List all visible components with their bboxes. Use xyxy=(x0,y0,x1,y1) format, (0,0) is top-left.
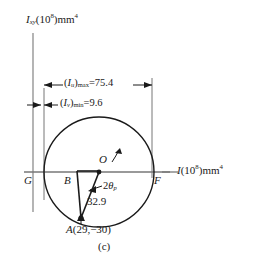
x-axis-unit-exponent: 4 xyxy=(220,163,223,170)
point-a-name: A xyxy=(66,223,73,235)
dimension-label-imin: (Iv)min=9.6 xyxy=(60,98,103,109)
theta-subscript: p xyxy=(113,184,116,191)
angle-label-2thetap: 2θp xyxy=(103,181,117,192)
imax-value: =75.4 xyxy=(89,77,113,88)
radius-label: 32.9 xyxy=(87,196,106,207)
y-axis-unit-exponent: 4 xyxy=(75,12,78,19)
figure-caption: (c) xyxy=(98,241,110,252)
imax-subscript: max xyxy=(78,81,89,88)
angle-leader-2thetap xyxy=(112,148,122,162)
angle-pointer-arrow xyxy=(88,186,102,193)
y-axis-label: Ixy(108)mm4 xyxy=(26,14,78,25)
mohrs-circle-figure: Ixy(108)mm4 I(108)mm4 (Iu)max=75.4 (Iv)m… xyxy=(0,0,253,273)
point-a-coordinates: (29,−30) xyxy=(73,223,111,235)
y-axis-unit: )mm xyxy=(54,13,75,25)
segment-b-a xyxy=(77,171,81,218)
x-axis-label: I(108)mm4 xyxy=(177,165,223,176)
point-label-b: B xyxy=(64,175,71,186)
figure-canvas xyxy=(0,0,253,273)
dimension-imin xyxy=(27,102,58,108)
imin-value: =9.6 xyxy=(84,97,103,108)
x-axis-unit: )mm xyxy=(199,164,220,176)
y-axis-paren: (10 xyxy=(36,13,51,25)
point-label-a: A(29,−30) xyxy=(66,224,111,235)
point-label-g: G xyxy=(24,175,32,186)
x-axis-paren: (10 xyxy=(181,164,196,176)
imin-subscript: min xyxy=(73,101,83,108)
dimension-label-imax: (Iu)max=75.4 xyxy=(64,78,113,89)
point-label-o: O xyxy=(99,154,107,165)
point-label-f: F xyxy=(154,175,161,186)
